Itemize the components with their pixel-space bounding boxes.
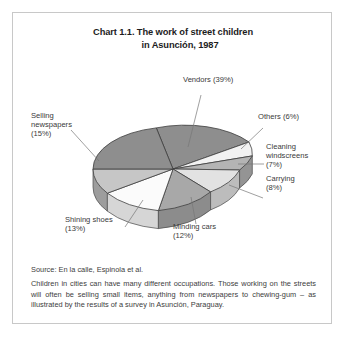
pie-label-shining-shoes: Shining shoes (13%): [65, 215, 113, 233]
chart-caption-body: Children in cities can have many differe…: [31, 279, 316, 310]
pie-label-cleaning-windscreens: Cleaning windscreens (7%): [266, 142, 308, 170]
leader-line-newspapers: [71, 130, 99, 161]
leader-line-others: [241, 128, 263, 149]
chart-figure-frame: Chart 1.1. The work of street children i…: [12, 12, 332, 324]
chart-source: Source: En la calle, Espinola et al.: [31, 265, 316, 275]
pie-label-vendors: Vendors (39%): [183, 75, 233, 84]
pie-label-selling-newspapers: Selling newspapers (15%): [31, 111, 72, 139]
chart-title-line1: Chart 1.1. The work of street children: [93, 27, 253, 37]
pie-label-others: Others (6%): [258, 112, 299, 121]
chart-title-line2: in Asunción, 1987: [13, 39, 333, 52]
pie-label-minding-cars: Minding cars (12%): [173, 222, 216, 240]
chart-caption: Source: En la calle, Espinola et al. Chi…: [31, 265, 316, 311]
pie-chart-area: Vendors (39%) Others (6%) Cleaning winds…: [13, 57, 333, 257]
chart-title: Chart 1.1. The work of street children i…: [13, 26, 333, 51]
pie-label-carrying: Carrying (8%): [266, 174, 295, 192]
